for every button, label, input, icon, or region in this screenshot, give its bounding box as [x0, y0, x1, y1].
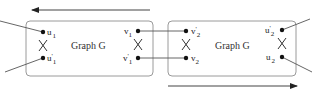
label-u2p: u'2: [265, 24, 275, 38]
label-v2p: v'2: [191, 25, 201, 39]
node-u1: [41, 30, 45, 34]
label-u1p: u'1: [47, 52, 57, 66]
graph-diagram: Graph G Graph G u1 u'1 v1 v'1 v'2 v2 u'2…: [0, 0, 329, 95]
node-u1p: [41, 56, 45, 60]
edge-u2-external: [282, 57, 312, 72]
edge-u1p-external: [5, 58, 43, 72]
left-graph-title: Graph G: [71, 40, 106, 51]
node-u2p: [280, 28, 284, 32]
node-u2: [280, 55, 284, 59]
crossing-v-left-icon: [134, 39, 142, 50]
node-v1: [136, 29, 140, 33]
node-v2p: [184, 29, 188, 33]
label-v2: v2: [191, 53, 200, 66]
label-v1: v1: [124, 26, 133, 39]
label-v1p: v'1: [123, 52, 133, 66]
node-v2: [184, 56, 188, 60]
node-v1p: [136, 56, 140, 60]
label-u2: u2: [266, 52, 276, 65]
edge-u1-external: [0, 21, 43, 32]
crossing-v-right-icon: [182, 39, 190, 50]
label-u1: u1: [47, 27, 57, 40]
right-graph-title: Graph G: [215, 40, 250, 51]
crossing-u-right-icon: [278, 38, 286, 49]
crossing-u-left-icon: [39, 40, 47, 51]
